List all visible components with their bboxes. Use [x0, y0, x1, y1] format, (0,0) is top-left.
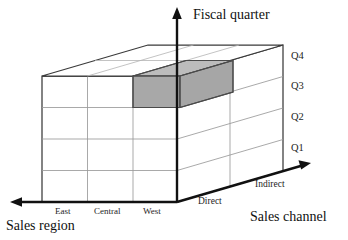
quarter-tick-q3: Q3 [291, 81, 304, 92]
quarter-tick-q2: Q2 [291, 112, 304, 123]
axis-title-sales-region: Sales region [6, 219, 75, 233]
quarter-tick-q4: Q4 [291, 51, 304, 62]
quarter-tick-q1: Q1 [291, 143, 304, 154]
axis-title-sales-channel: Sales channel [250, 210, 327, 224]
channel-tick-indirect: Indirect [255, 180, 285, 190]
axis-title-fiscal-quarter: Fiscal quarter [193, 8, 270, 22]
region-tick-central: Central [94, 207, 121, 216]
region-tick-east: East [55, 207, 71, 216]
channel-tick-direct: Direct [198, 197, 222, 207]
data-cube-diagram: Fiscal quarter Q1 Q2 Q3 Q4 East Central … [0, 0, 348, 240]
region-tick-west: West [143, 207, 161, 216]
